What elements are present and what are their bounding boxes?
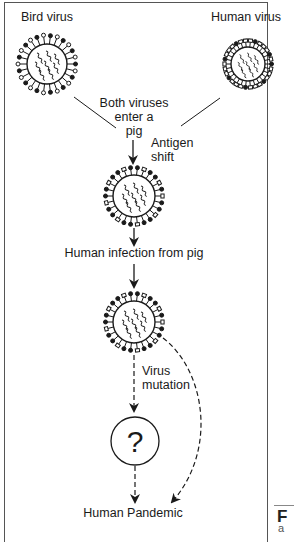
virus-mutation-label: Virus mutation: [142, 364, 190, 392]
direct-pandemic-curved-arrow: [163, 338, 201, 502]
unknown-outcome-node: ?: [111, 417, 159, 465]
human-infection-label: Human infection from pig: [65, 246, 204, 260]
svg-text:Virus: Virus: [142, 364, 170, 378]
svg-text:shift: shift: [151, 150, 174, 164]
svg-text:pig: pig: [126, 124, 143, 138]
svg-text:Both viruses: Both viruses: [100, 96, 169, 110]
human-to-pig-line: [181, 98, 220, 126]
bird-virus-label: Bird virus: [21, 10, 73, 24]
pig-mix-label: Both viruses enter a pig: [100, 96, 169, 138]
adjacent-figure-rule: [274, 505, 294, 506]
adjacent-figure-subtext: a: [278, 522, 284, 534]
svg-text:enter a: enter a: [115, 110, 154, 124]
human-adapted-virus-icon: [104, 292, 165, 353]
bird-virus-icon: [16, 33, 78, 95]
human-virus-icon: [223, 39, 274, 90]
human-pandemic-label: Human Pandemic: [83, 506, 182, 520]
antigen-shift-label: Antigen shift: [151, 136, 193, 164]
question-mark-icon: ?: [127, 425, 144, 458]
svg-text:mutation: mutation: [142, 378, 190, 392]
reassortant-virus-icon: [104, 166, 165, 227]
human-virus-label: Human virus: [211, 10, 281, 24]
svg-text:Antigen: Antigen: [151, 136, 193, 150]
